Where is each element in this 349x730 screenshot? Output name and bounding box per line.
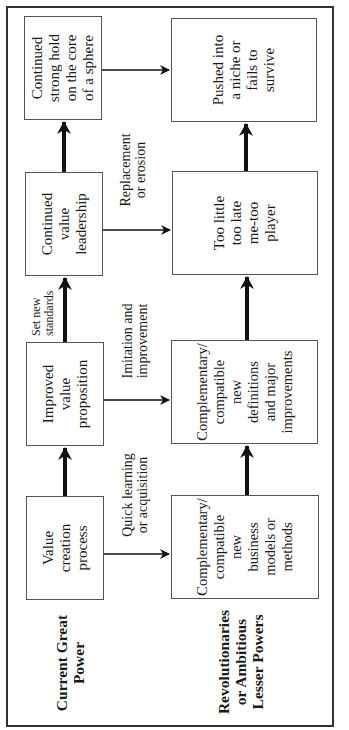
progression-arrows-bottom <box>246 124 247 495</box>
influence-arrows <box>102 70 170 554</box>
arrows-layer <box>0 0 349 730</box>
progression-arrows-top <box>64 122 65 496</box>
diagram-canvas: Current Great Power Revolutionaries or A… <box>0 0 349 730</box>
